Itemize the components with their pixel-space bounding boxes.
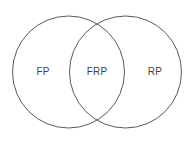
venn-label-right-only: RP (148, 66, 162, 77)
venn-label-left-only: FP (36, 66, 49, 77)
venn-diagram-canvas: FP FRP RP (0, 0, 194, 143)
venn-label-intersection: FRP (87, 66, 108, 77)
venn-diagram-figure: FP FRP RP (0, 0, 194, 143)
